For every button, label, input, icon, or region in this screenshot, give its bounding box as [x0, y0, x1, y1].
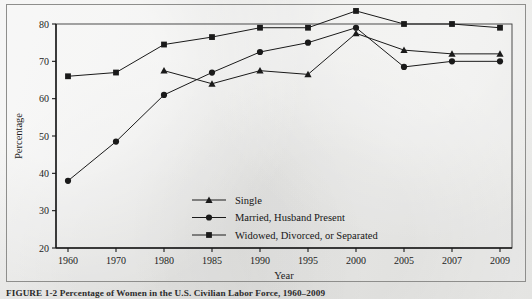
x-tick-label: 2005: [394, 255, 414, 266]
y-tick-label: 20: [39, 243, 49, 254]
x-tick-label: 1995: [298, 255, 318, 266]
data-point: [497, 58, 503, 64]
y-tick-label: 40: [39, 168, 49, 179]
legend-label: Widowed, Divorced, or Separated: [235, 230, 378, 241]
x-axis-title: Year: [274, 270, 294, 281]
data-point: [257, 25, 263, 31]
data-point: [305, 25, 311, 31]
data-point: [161, 92, 167, 98]
legend-marker: [206, 232, 212, 238]
data-point: [209, 34, 215, 40]
data-point: [497, 25, 503, 31]
data-point: [257, 49, 263, 55]
data-point: [161, 42, 167, 48]
data-point: [400, 47, 407, 54]
data-point: [209, 69, 215, 75]
figure-container: 20304050607080Percentage1960197019801985…: [6, 4, 526, 282]
figure-caption-band: FIGURE 1-2 Percentage of Women in the U.…: [6, 288, 526, 299]
data-point: [353, 8, 359, 14]
y-axis-title: Percentage: [13, 113, 24, 159]
legend-label: Single: [235, 195, 262, 206]
x-tick-label: 1970: [106, 255, 126, 266]
y-tick-label: 80: [39, 19, 49, 30]
line-chart: 20304050607080Percentage1960197019801985…: [6, 4, 526, 282]
data-point: [353, 25, 359, 31]
data-point: [449, 21, 455, 27]
data-point: [449, 58, 455, 64]
x-tick-label: 2007: [442, 255, 462, 266]
data-point: [160, 67, 167, 74]
series-married-husband-present: [65, 25, 503, 184]
x-tick-label: 2009: [490, 255, 510, 266]
y-tick-label: 50: [39, 131, 49, 142]
data-point: [401, 64, 407, 70]
data-point: [65, 73, 71, 79]
data-point: [256, 67, 263, 74]
chart-legend: SingleMarried, Husband PresentWidowed, D…: [192, 195, 378, 241]
x-tick-label: 1985: [202, 255, 222, 266]
data-point: [113, 70, 119, 76]
legend-label: Married, Husband Present: [235, 212, 345, 223]
y-tick-label: 60: [39, 93, 49, 104]
figure-caption: FIGURE 1-2 Percentage of Women in the U.…: [6, 288, 526, 299]
legend-marker: [206, 214, 212, 220]
data-point: [65, 178, 71, 184]
x-tick-label: 1960: [58, 255, 78, 266]
x-tick-label: 1990: [250, 255, 270, 266]
x-tick-label: 1980: [154, 255, 174, 266]
series-widowed-divorced-or-separated: [65, 8, 503, 79]
y-tick-label: 70: [39, 56, 49, 67]
x-tick-label: 2000: [346, 255, 366, 266]
y-tick-label: 30: [39, 205, 49, 216]
data-point: [305, 40, 311, 46]
data-point: [113, 139, 119, 145]
data-point: [401, 21, 407, 27]
